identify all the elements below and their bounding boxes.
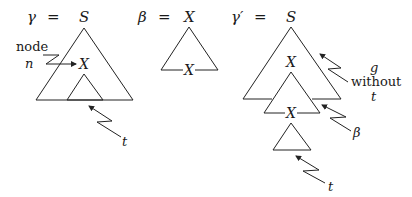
gamma-prime-beta-label: β — [352, 125, 361, 140]
g-without-t-arrow-icon — [320, 54, 348, 82]
tree-adjunction-diagram: γ = S X node n t β = X X γ′ = S X X g wi… — [0, 0, 412, 197]
gamma-root-label: S — [79, 8, 89, 26]
g-t-label: t — [371, 89, 377, 104]
beta-equals: = — [158, 8, 171, 26]
beta-foot-label: X — [183, 62, 195, 78]
gamma-prime-t-label: t — [328, 179, 334, 194]
gamma-node-x: X — [78, 56, 90, 72]
gamma-prime-inner-x: X — [285, 54, 297, 70]
beta-symbol: β — [137, 8, 147, 26]
gamma-symbol: γ — [27, 8, 36, 26]
beta-root-label: X — [183, 8, 196, 26]
gamma-prime-root-label: S — [286, 8, 296, 26]
gamma-prime-foot-x: X — [285, 105, 297, 121]
beta-tree: β = X X — [137, 8, 218, 78]
gamma-t-arrow-icon — [89, 106, 121, 137]
node-arrow-icon — [43, 55, 76, 64]
node-n-label: n — [25, 56, 33, 71]
g-label: g — [370, 60, 378, 75]
gamma-prime-equals: = — [254, 8, 267, 26]
beta-arrow-icon — [322, 105, 351, 131]
gamma-prime-symbol: γ′ — [231, 8, 244, 26]
gamma-equals: = — [47, 8, 60, 26]
gamma-subtree-triangle — [67, 74, 103, 100]
gamma-tree: γ = S X node n t — [16, 8, 133, 149]
node-label: node — [16, 39, 49, 54]
gamma-t-label: t — [122, 134, 128, 149]
gamma-prime-t-arrow-icon — [296, 156, 325, 183]
gamma-prime-t-triangle — [273, 123, 311, 150]
gamma-prime-tree: γ′ = S X X g without t β t — [231, 8, 402, 194]
without-label: without — [351, 74, 402, 89]
